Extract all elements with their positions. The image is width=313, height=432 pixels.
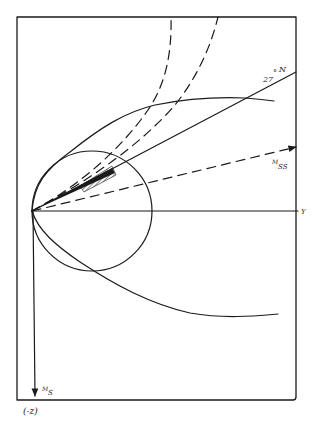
dashed-curve-2 bbox=[32, 17, 218, 211]
neg-z-label: (-z) bbox=[23, 406, 38, 416]
svg-text:°: ° bbox=[273, 68, 277, 77]
ms-axis-line bbox=[33, 211, 35, 396]
svg-text:SS: SS bbox=[278, 163, 288, 171]
svg-text:N: N bbox=[278, 65, 287, 74]
label-mss: M SS bbox=[271, 158, 288, 171]
mss-vector bbox=[32, 147, 296, 211]
frame bbox=[17, 17, 296, 400]
label-27n: 27 ° N bbox=[262, 65, 287, 84]
y-axis-label: Y bbox=[301, 208, 307, 216]
svg-text:S: S bbox=[48, 389, 53, 397]
lower-envelope-curve bbox=[32, 211, 278, 317]
diagram-canvas: Y M S (-z) 27 ° N M SS bbox=[0, 0, 313, 432]
ms-axis-label: M S bbox=[41, 385, 53, 397]
